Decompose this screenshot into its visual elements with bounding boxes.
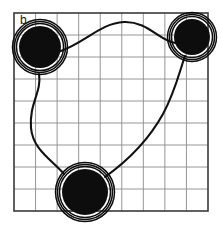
node-top-right (168, 13, 217, 62)
node-bottom-core (62, 169, 108, 215)
node-top-right-core (174, 19, 210, 55)
node-top-left-core (19, 26, 61, 68)
figure-panel: b (0, 0, 221, 226)
node-top-left (13, 20, 68, 75)
node-bottom (56, 163, 115, 222)
panel-label: b (20, 14, 27, 26)
network-diagram (0, 0, 221, 226)
